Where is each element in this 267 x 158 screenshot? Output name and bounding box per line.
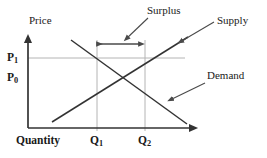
- y-tick-label-p1-text: P: [7, 51, 14, 63]
- x-axis-label: Quantity: [16, 135, 60, 147]
- x-tick-label-q1-text: Q: [90, 134, 99, 146]
- axes: [28, 38, 194, 128]
- y-tick-label-p0-subscript: 0: [14, 76, 18, 85]
- demand-callout-arrow: [170, 83, 205, 100]
- y-tick-label-p1: P1: [7, 52, 18, 64]
- supply-curve-label: Supply: [217, 15, 248, 26]
- y-tick-label-p1-subscript: 1: [14, 56, 18, 65]
- x-tick-label-q2: Q2: [138, 135, 151, 147]
- surplus-annotation-label: Surplus: [147, 5, 181, 16]
- surplus-callout-arrow: [126, 18, 148, 39]
- x-tick-label-q1-subscript: 1: [99, 139, 103, 148]
- curves: [52, 37, 188, 124]
- supply-callout-arrow: [180, 22, 214, 42]
- demand-curve: [71, 40, 187, 124]
- x-tick-label-q2-text: Q: [138, 134, 147, 146]
- supply-demand-diagram: Price Surplus Supply Demand P1 P0 Quanti…: [0, 0, 267, 158]
- y-tick-label-p0: P0: [7, 72, 18, 84]
- y-tick-label-p0-text: P: [7, 71, 14, 83]
- demand-curve-label: Demand: [207, 70, 244, 81]
- x-tick-label-q1: Q1: [90, 135, 103, 147]
- x-tick-label-q2-subscript: 2: [147, 139, 151, 148]
- y-axis-label: Price: [29, 15, 52, 26]
- callout-arrows: [126, 18, 214, 100]
